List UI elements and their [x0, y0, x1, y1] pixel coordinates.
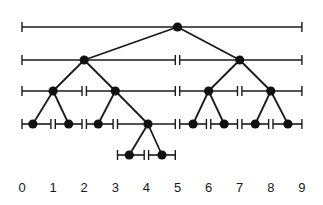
- tree-node: [28, 119, 37, 128]
- tree-edge: [84, 60, 115, 91]
- tree-node: [283, 119, 292, 128]
- diagram-canvas: 0123456789: [0, 0, 323, 205]
- axis-label: 8: [267, 180, 274, 195]
- tree-node: [80, 55, 89, 64]
- tree-edge: [148, 124, 162, 155]
- axis-label: 2: [81, 180, 88, 195]
- interval-tree-diagram: 0123456789: [0, 0, 323, 205]
- tree-node: [64, 119, 73, 128]
- interval-segments: [22, 22, 302, 160]
- tree-edge: [240, 60, 271, 91]
- axis-label: 3: [112, 180, 119, 195]
- axis-label: 6: [205, 180, 212, 195]
- tree-edge: [209, 60, 240, 91]
- tree-node: [157, 150, 166, 159]
- tree-node: [125, 150, 134, 159]
- axis-label: 5: [174, 180, 181, 195]
- tree-node: [49, 86, 58, 95]
- tree-edge: [115, 91, 148, 124]
- axis-labels: 0123456789: [18, 180, 305, 195]
- axis-label: 4: [143, 180, 150, 195]
- tree-edge: [53, 60, 84, 91]
- tree-node: [143, 119, 152, 128]
- tree-edge: [178, 27, 240, 60]
- axis-label: 0: [18, 180, 25, 195]
- tree-node: [266, 86, 275, 95]
- axis-label: 9: [298, 180, 305, 195]
- tree-node: [188, 119, 197, 128]
- tree-edge: [129, 124, 148, 155]
- tree-edge: [33, 91, 53, 124]
- axis-label: 1: [49, 180, 56, 195]
- tree-edge: [84, 27, 177, 60]
- tree-node: [235, 55, 244, 64]
- tree-node: [251, 119, 260, 128]
- tree-node: [204, 86, 213, 95]
- tree-node: [94, 119, 103, 128]
- tree-node: [173, 22, 182, 31]
- tree-node: [111, 86, 120, 95]
- axis-label: 7: [236, 180, 243, 195]
- tree-node: [220, 119, 229, 128]
